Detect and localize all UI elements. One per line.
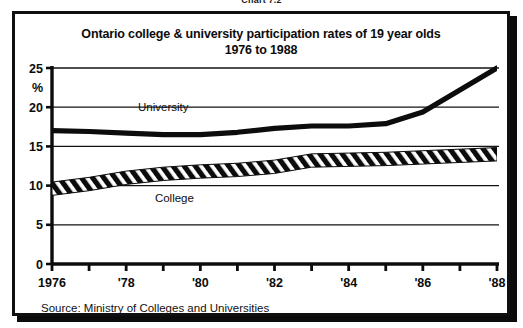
- svg-text:'80: '80: [192, 276, 209, 290]
- svg-text:College: College: [155, 192, 194, 204]
- svg-text:20: 20: [29, 101, 43, 115]
- svg-text:'88: '88: [489, 276, 506, 290]
- x-axis-tick-labels: 1976'78'80'82'84'86'88: [38, 276, 505, 290]
- y-axis-unit-label: %: [32, 81, 43, 95]
- figure-number-label: Chart 7.2: [0, 0, 523, 3]
- series-inline-labels: UniversityCollege: [138, 101, 194, 204]
- chart-page: Chart 7.2 Ontario college & university p…: [0, 0, 523, 328]
- source-note: Source: Ministry of Colleges and Univers…: [41, 302, 269, 314]
- series-college-area: [52, 148, 497, 196]
- chart-frame: Ontario college & university participati…: [12, 11, 510, 316]
- series-university-line: [52, 68, 497, 135]
- svg-text:'78: '78: [118, 276, 135, 290]
- svg-text:0: 0: [36, 258, 43, 272]
- svg-text:1976: 1976: [38, 276, 66, 290]
- y-gridlines: [52, 68, 499, 225]
- svg-text:15: 15: [29, 140, 43, 154]
- svg-text:10: 10: [29, 179, 43, 193]
- plot-area: 0510152025 1976'78'80'82'84'86'88 Univer…: [15, 14, 513, 319]
- chart-svg: 0510152025 1976'78'80'82'84'86'88 Univer…: [15, 14, 513, 319]
- svg-text:'86: '86: [414, 276, 431, 290]
- svg-text:'82: '82: [266, 276, 283, 290]
- svg-text:University: University: [138, 101, 189, 113]
- svg-text:25: 25: [29, 62, 43, 76]
- svg-text:'84: '84: [340, 276, 357, 290]
- svg-text:5: 5: [36, 218, 43, 232]
